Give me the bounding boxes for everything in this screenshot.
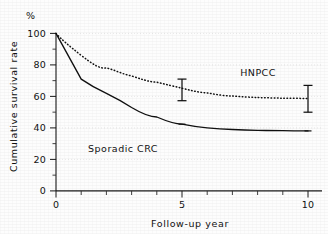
error-bar-hnpcc-year5 bbox=[178, 79, 187, 101]
y-axis bbox=[50, 33, 56, 191]
y-tick-label-60: 60 bbox=[34, 91, 47, 102]
x-tick-label-10: 10 bbox=[302, 199, 315, 210]
y-tick-labels: 100 80 60 40 20 0 bbox=[27, 28, 46, 197]
y-tick-label-100: 100 bbox=[27, 28, 46, 39]
y-tick-label-0: 0 bbox=[40, 185, 46, 196]
y-axis-title: Cumulative survival rate bbox=[8, 41, 19, 172]
y-axis-unit-label: % bbox=[26, 10, 35, 21]
x-axis bbox=[56, 191, 322, 198]
x-tick-label-5: 5 bbox=[179, 199, 185, 210]
y-tick-label-20: 20 bbox=[34, 154, 47, 165]
survival-chart-figure: 100 80 60 40 20 0 0 5 10 % Cumulative su… bbox=[0, 0, 328, 234]
x-tick-label-0: 0 bbox=[53, 199, 59, 210]
series-label-hnpcc: HNPCC bbox=[240, 67, 276, 78]
y-tick-label-80: 80 bbox=[34, 59, 47, 70]
x-axis-title: Follow-up year bbox=[151, 218, 229, 229]
error-bar-hnpcc-year10 bbox=[304, 85, 313, 112]
x-tick-labels: 0 5 10 bbox=[53, 199, 314, 210]
gridlines bbox=[56, 33, 322, 159]
chart-canvas: 100 80 60 40 20 0 0 5 10 % Cumulative su… bbox=[0, 0, 328, 234]
y-tick-label-40: 40 bbox=[34, 122, 47, 133]
series-label-sporadic-crc: Sporadic CRC bbox=[88, 143, 158, 154]
